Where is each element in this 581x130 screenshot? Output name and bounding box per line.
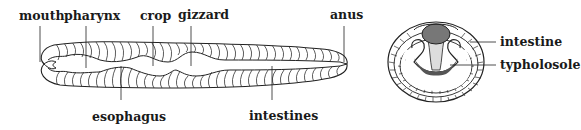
label-crop: crop <box>140 8 172 23</box>
label-esophagus: esophagus <box>92 109 166 124</box>
body-segments <box>56 42 340 88</box>
label-typholosole: typholosole <box>500 57 580 72</box>
anus-opening <box>340 62 347 66</box>
label-anus: anus <box>330 7 363 22</box>
worm-cross-section <box>388 22 484 102</box>
label-pharynx: pharynx <box>64 8 121 23</box>
body-outline <box>41 42 347 88</box>
label-intestines: intestines <box>249 108 318 123</box>
dorsal-vessel <box>422 24 450 44</box>
leader-lines-longitudinal <box>40 26 344 100</box>
label-gizzard: gizzard <box>178 7 229 22</box>
mouth-opening <box>44 61 56 69</box>
worm-longitudinal-section <box>41 42 347 88</box>
label-intestine: intestine <box>500 34 562 49</box>
earthworm-diagram: mouth pharynx crop gizzard anus esophagu… <box>0 0 581 130</box>
gut-lower-wall <box>48 66 340 76</box>
label-mouth: mouth <box>19 8 65 23</box>
